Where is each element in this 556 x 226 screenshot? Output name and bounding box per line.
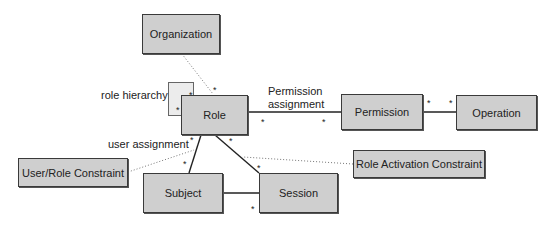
multiplicity-marker: * [176, 106, 180, 115]
role-hierarchy-label: role hierarchy [101, 89, 168, 102]
node-organization: Organization [142, 14, 220, 54]
node-role-activation-constraint: Role Activation Constraint [353, 150, 485, 178]
node-user-role-constraint: User/Role Constraint [18, 158, 128, 187]
permission-assignment-label-1: Permission [268, 85, 322, 98]
node-label: User/Role Constraint [22, 167, 124, 179]
multiplicity-marker: * [427, 99, 431, 108]
multiplicity-marker: * [229, 137, 233, 146]
multiplicity-marker: * [183, 160, 187, 169]
node-label: Permission [355, 106, 409, 118]
node-label: Operation [472, 107, 520, 119]
node-permission: Permission [341, 94, 423, 130]
multiplicity-marker: * [213, 86, 217, 95]
multiplicity-marker: * [189, 91, 193, 100]
node-label: Role Activation Constraint [356, 158, 482, 170]
multiplicity-marker: * [261, 118, 265, 127]
permission-assignment-label-2: assignment [268, 98, 324, 111]
node-operation: Operation [456, 95, 537, 130]
node-session: Session [259, 173, 338, 213]
rbac-diagram: OrganizationRolePermissionOperationUser/… [0, 0, 556, 226]
node-label: Subject [165, 187, 202, 199]
multiplicity-marker: * [449, 99, 453, 108]
node-role: Role [181, 95, 248, 135]
multiplicity-marker: * [251, 205, 255, 214]
node-label: Role [203, 109, 226, 121]
user-assignment-label: user assignment [108, 138, 189, 151]
multiplicity-marker: * [322, 118, 326, 127]
node-label: Organization [150, 28, 212, 40]
multiplicity-marker: * [257, 164, 261, 173]
edge-role-session [215, 135, 259, 173]
node-subject: Subject [143, 173, 223, 213]
multiplicity-marker: * [190, 136, 194, 145]
node-label: Session [279, 187, 318, 199]
